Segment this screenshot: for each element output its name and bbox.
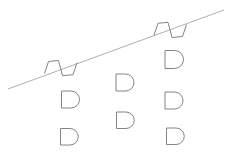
notched-shape-lower-left [45, 61, 78, 76]
diagram-canvas [0, 0, 229, 161]
door-shape-col2-row1 [116, 74, 134, 91]
door-shape-col2-row2 [117, 112, 135, 129]
door-shape-col1-row2 [61, 129, 79, 146]
figure-stage [0, 0, 229, 161]
door-shape-col3-row2 [165, 92, 183, 109]
door-shape-col3-row1 [165, 51, 184, 69]
notched-shape-upper-right [154, 22, 187, 37]
door-shape-col1-row1 [62, 91, 80, 108]
door-shape-col3-row3 [167, 128, 185, 145]
shapes-layer [8, 10, 224, 145]
